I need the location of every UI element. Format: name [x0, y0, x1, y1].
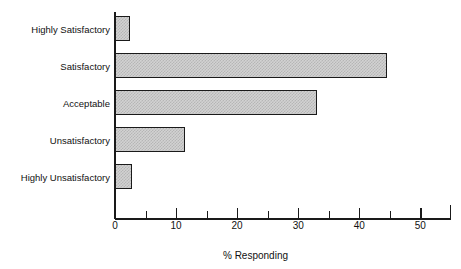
- category-label-highly-satisfactory: Highly Satisfactory: [0, 25, 110, 35]
- x-tick-40: [359, 208, 360, 218]
- x-tick-minor-45: [390, 211, 391, 218]
- x-tick-10: [176, 208, 177, 218]
- x-tick-label-0: 0: [95, 221, 135, 231]
- category-label-satisfactory: Satisfactory: [0, 62, 110, 72]
- x-tick-20: [237, 208, 238, 218]
- category-label-highly-unsatisfactory: Highly Unsatisfactory: [0, 173, 110, 183]
- x-tick-minor-15: [207, 211, 208, 218]
- x-tick-label-30: 30: [278, 221, 318, 231]
- x-tick-label-50: 50: [400, 221, 440, 231]
- x-tick-label-40: 40: [339, 221, 379, 231]
- x-tick-50: [420, 208, 421, 218]
- x-tick-label-10: 10: [156, 221, 196, 231]
- x-axis-title: % Responding: [223, 250, 288, 261]
- bar-chart: Highly Satisfactory Satisfactory Accepta…: [0, 0, 461, 269]
- x-axis-endcap-tick: [450, 205, 451, 218]
- bar-highly-satisfactory: [115, 16, 130, 41]
- x-axis-line: [115, 218, 451, 220]
- x-tick-minor-35: [329, 211, 330, 218]
- x-tick-minor-5: [146, 211, 147, 218]
- category-label-unsatisfactory: Unsatisfactory: [0, 136, 110, 146]
- x-tick-0: [115, 208, 116, 218]
- x-tick-30: [298, 208, 299, 218]
- x-tick-label-20: 20: [217, 221, 257, 231]
- bar-unsatisfactory: [115, 127, 185, 152]
- category-label-acceptable: Acceptable: [0, 99, 110, 109]
- bar-highly-unsatisfactory: [115, 164, 132, 189]
- x-tick-minor-25: [268, 211, 269, 218]
- bar-acceptable: [115, 90, 317, 115]
- bar-satisfactory: [115, 53, 387, 78]
- x-axis-title-wrap: % Responding: [0, 250, 461, 261]
- y-axis-line: [114, 12, 116, 219]
